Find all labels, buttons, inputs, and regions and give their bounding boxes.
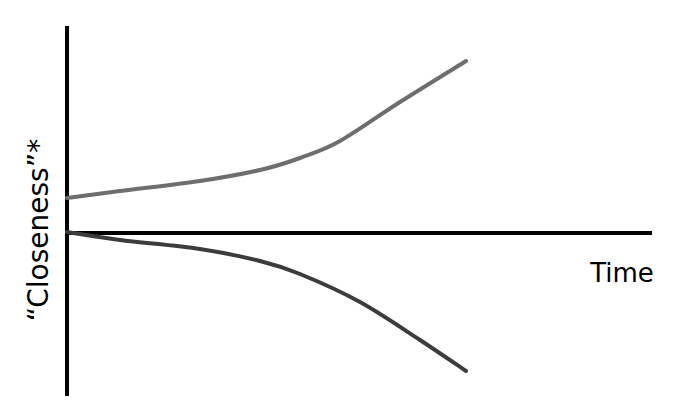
y-axis-label: “Closeness”* <box>22 139 55 321</box>
closeness-over-time-diagram: Time “Closeness”* <box>0 0 683 418</box>
lower-curve-line <box>67 232 466 371</box>
x-axis-label: Time <box>589 258 654 288</box>
upper-curve-line <box>67 61 466 198</box>
